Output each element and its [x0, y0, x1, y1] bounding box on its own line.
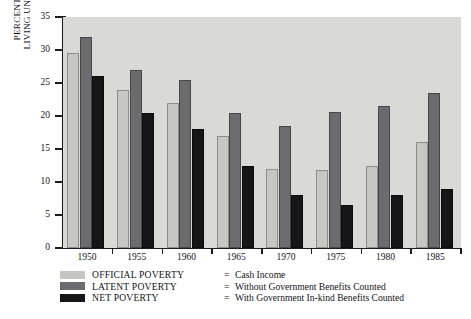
bar-group — [262, 17, 312, 248]
bar-net-1985 — [441, 189, 453, 248]
bar-official-1955 — [117, 90, 129, 248]
bar-net-1975 — [341, 205, 353, 248]
legend-swatch-latent-icon — [60, 282, 85, 290]
bar-latent-1980 — [378, 106, 390, 248]
bar-latent-1970 — [279, 126, 291, 248]
legend-row-latent: LATENT POVERTY = Without Government Bene… — [60, 281, 460, 293]
bar-latent-1950 — [80, 37, 92, 248]
bar-official-1965 — [217, 136, 229, 248]
y-tick-mark — [55, 181, 62, 182]
legend-equals-net: = — [224, 292, 235, 303]
legend-label-official: OFFICIAL POVERTY — [92, 269, 224, 280]
legend-row-official: OFFICIAL POVERTY = Cash Income — [60, 269, 460, 281]
x-tick-label-1965: 1965 — [214, 252, 258, 262]
y-axis-title-line-2: LIVING UNDER POVERTY LINE — [23, 0, 33, 49]
y-tick-mark — [55, 115, 62, 116]
poverty-bar-chart: PERCENTAGE OF PERSONS LIVING UNDER POVER… — [0, 0, 471, 319]
y-tick-label: 10 — [26, 177, 50, 187]
plot-area — [62, 17, 461, 249]
legend-swatch-official-icon — [60, 271, 85, 279]
x-tick-mark — [211, 248, 213, 254]
x-tick-label-1985: 1985 — [413, 252, 457, 262]
legend-label-net: NET POVERTY — [92, 292, 224, 303]
y-tick-label: 0 — [26, 243, 50, 253]
y-tick-label: 30 — [26, 45, 50, 55]
legend-description-latent: Without Government Benefits Counted — [235, 281, 386, 292]
x-tick-mark — [460, 248, 462, 254]
legend-swatch-net-icon — [60, 294, 85, 302]
legend-equals-latent: = — [224, 281, 235, 292]
x-tick-mark — [162, 248, 164, 254]
x-tick-label-1980: 1980 — [363, 252, 407, 262]
x-tick-mark — [261, 248, 263, 254]
bar-official-1960 — [167, 103, 179, 248]
bar-group — [312, 17, 362, 248]
x-tick-label-1950: 1950 — [65, 252, 109, 262]
y-tick-label: 5 — [26, 210, 50, 220]
bar-latent-1975 — [329, 112, 341, 248]
bar-group — [63, 17, 113, 248]
y-tick-label: 15 — [26, 144, 50, 154]
legend-label-latent: LATENT POVERTY — [92, 281, 224, 292]
bar-group — [113, 17, 163, 248]
y-tick-label: 25 — [26, 78, 50, 88]
bar-official-1970 — [266, 169, 278, 248]
bar-group — [411, 17, 461, 248]
bar-group — [163, 17, 213, 248]
bar-net-1965 — [242, 166, 254, 249]
y-tick-mark — [55, 16, 62, 17]
bar-official-1950 — [67, 53, 79, 248]
x-tick-label-1975: 1975 — [314, 252, 358, 262]
x-tick-mark — [410, 248, 412, 254]
bar-net-1980 — [391, 195, 403, 248]
bar-latent-1960 — [179, 80, 191, 248]
x-tick-label-1955: 1955 — [115, 252, 159, 262]
chart-legend: OFFICIAL POVERTY = Cash Income LATENT PO… — [60, 269, 460, 304]
x-tick-label-1960: 1960 — [164, 252, 208, 262]
bar-net-1955 — [142, 113, 154, 248]
y-tick-mark — [55, 214, 62, 215]
y-tick-mark — [55, 247, 62, 248]
y-axis-title: PERCENTAGE OF PERSONS LIVING UNDER POVER… — [8, 0, 38, 68]
x-tick-label-1970: 1970 — [264, 252, 308, 262]
bar-group — [212, 17, 262, 248]
x-tick-mark — [311, 248, 313, 254]
bar-group — [362, 17, 412, 248]
x-tick-mark — [112, 248, 114, 254]
bar-net-1960 — [192, 129, 204, 248]
bar-official-1975 — [316, 170, 328, 248]
y-tick-label: 35 — [26, 12, 50, 22]
legend-description-official: Cash Income — [235, 269, 285, 280]
x-tick-mark — [361, 248, 363, 254]
y-tick-label: 20 — [26, 111, 50, 121]
y-tick-mark — [55, 82, 62, 83]
bar-latent-1985 — [428, 93, 440, 248]
y-tick-mark — [55, 49, 62, 50]
bar-net-1950 — [92, 76, 104, 248]
legend-equals-official: = — [224, 269, 235, 280]
bar-latent-1955 — [130, 70, 142, 248]
bar-official-1985 — [416, 142, 428, 248]
legend-description-net: With Government In-kind Benefits Counted — [235, 292, 404, 303]
bar-net-1970 — [291, 195, 303, 248]
bar-latent-1965 — [229, 113, 241, 248]
y-tick-mark — [55, 148, 62, 149]
legend-row-net: NET POVERTY = With Government In-kind Be… — [60, 292, 460, 304]
bar-official-1980 — [366, 166, 378, 249]
